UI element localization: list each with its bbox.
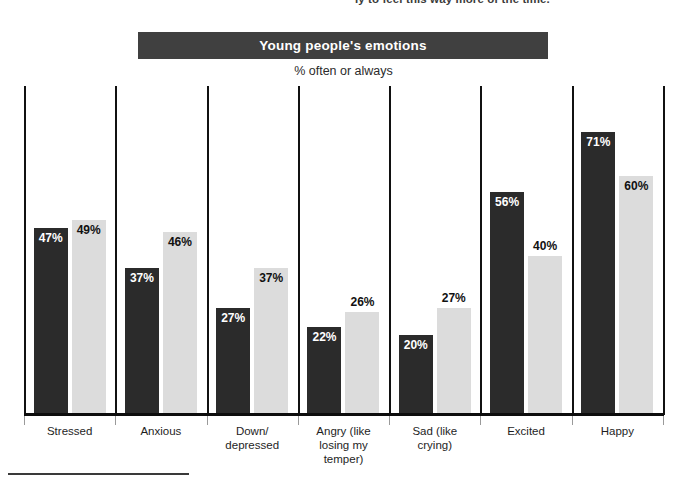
bar-light[interactable]: 46% <box>163 232 197 415</box>
category-label: Excited <box>480 424 571 438</box>
chart-baseline-axis <box>24 413 664 416</box>
bar-value-label: 60% <box>619 180 653 192</box>
bar-group: 20%27% <box>389 86 480 415</box>
bar-dark[interactable]: 47% <box>34 228 68 415</box>
bar-dark[interactable]: 22% <box>307 327 341 415</box>
bar-pair: 37%46% <box>115 86 206 415</box>
bar-pair: 22%26% <box>298 86 389 415</box>
bar-pair: 56%40% <box>480 86 571 415</box>
bar-light[interactable]: 26% <box>345 312 379 415</box>
bar-group: 56%40% <box>480 86 571 415</box>
bar-value-label: 56% <box>490 196 524 208</box>
chart-plot-area: 47%49%37%46%27%37%22%26%20%27%56%40%71%6… <box>0 86 687 418</box>
bar-dark[interactable]: 20% <box>399 335 433 415</box>
bar-dark[interactable]: 56% <box>490 192 524 415</box>
category-label: Anxious <box>115 424 206 438</box>
bar-light[interactable]: 60% <box>619 176 653 415</box>
bar-pair: 71%60% <box>572 86 663 415</box>
bar-value-label: 71% <box>581 136 615 148</box>
bar-light[interactable]: 49% <box>72 220 106 415</box>
bar-pair: 20%27% <box>389 86 480 415</box>
bar-value-label: 22% <box>307 331 341 343</box>
bar-value-label: 46% <box>163 236 197 248</box>
top-caption: ly to feel this way more of the time. <box>0 0 687 7</box>
bar-group: 47%49% <box>24 86 115 415</box>
bar-light[interactable]: 27% <box>437 308 471 415</box>
footer-rule <box>8 473 189 475</box>
bar-dark[interactable]: 71% <box>581 132 615 415</box>
category-label: Stressed <box>24 424 115 438</box>
bar-dark[interactable]: 37% <box>125 268 159 415</box>
axis-tick <box>663 416 664 425</box>
bar-pair: 27%37% <box>207 86 298 415</box>
category-label: Angry (like losing my temper) <box>298 424 389 466</box>
bar-group: 27%37% <box>207 86 298 415</box>
chart-title: Young people's emotions <box>259 38 426 53</box>
bar-value-label: 26% <box>345 296 379 308</box>
bar-pair: 47%49% <box>24 86 115 415</box>
category-label: Sad (like crying) <box>389 424 480 452</box>
bar-value-label: 37% <box>254 272 288 284</box>
bar-group: 22%26% <box>298 86 389 415</box>
category-label: Down/ depressed <box>207 424 298 452</box>
bar-dark[interactable]: 27% <box>216 308 250 415</box>
bar-light[interactable]: 40% <box>528 256 562 415</box>
bar-value-label: 20% <box>399 339 433 351</box>
bar-value-label: 47% <box>34 232 68 244</box>
bar-value-label: 49% <box>72 224 106 236</box>
category-label: Happy <box>572 424 663 438</box>
bar-value-label: 27% <box>437 292 471 304</box>
bar-value-label: 37% <box>125 272 159 284</box>
bar-group: 37%46% <box>115 86 206 415</box>
bar-value-label: 40% <box>528 240 562 252</box>
bar-value-label: 27% <box>216 312 250 324</box>
chart-title-banner: Young people's emotions <box>138 32 548 59</box>
bar-group: 71%60% <box>572 86 663 415</box>
top-caption-right-fragment: ly to feel this way more of the time. <box>355 0 550 5</box>
bar-light[interactable]: 37% <box>254 268 288 415</box>
chart-subtitle: % often or always <box>0 64 687 78</box>
category-divider-line <box>663 86 665 415</box>
